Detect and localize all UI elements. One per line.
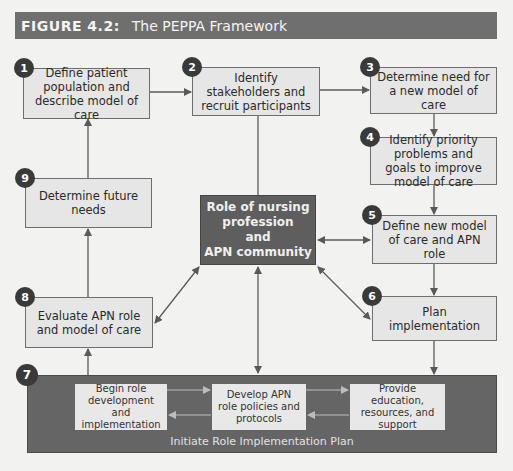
center-line-1: Role of nursing bbox=[204, 200, 311, 215]
step-8-badge: 8 bbox=[15, 287, 35, 307]
center-line-3: and bbox=[204, 230, 311, 245]
step-5-badge: 5 bbox=[362, 205, 382, 225]
center-line-2: profession bbox=[204, 215, 311, 230]
step-4-badge: 4 bbox=[360, 127, 380, 147]
step-6-badge: 6 bbox=[362, 286, 382, 306]
center-role-box: Role of nursing profession and APN commu… bbox=[200, 195, 316, 265]
step-2-badge: 2 bbox=[182, 57, 202, 77]
step-3-badge: 3 bbox=[360, 57, 380, 77]
center-line-4: APN community bbox=[204, 245, 311, 260]
step-7-badge: 7 bbox=[16, 364, 38, 386]
step-1-badge: 1 bbox=[14, 58, 34, 78]
step-9-badge: 9 bbox=[15, 168, 35, 188]
